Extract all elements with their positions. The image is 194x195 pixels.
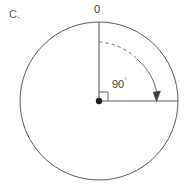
circle-diagram-svg — [0, 0, 194, 195]
zero-position-label: 0 — [94, 4, 100, 15]
angle-measure-label: 90° — [112, 77, 127, 90]
degree-symbol: ° — [124, 77, 127, 84]
angle-value: 90 — [112, 78, 124, 90]
panel-letter-label: C. — [9, 9, 20, 20]
arrow-head-icon — [153, 91, 160, 102]
center-dot — [96, 98, 102, 104]
rotation-arc-dashed — [99, 42, 137, 59]
rotation-arc-solid — [137, 59, 157, 93]
geometry-figure: C. 0 90° — [0, 0, 194, 195]
